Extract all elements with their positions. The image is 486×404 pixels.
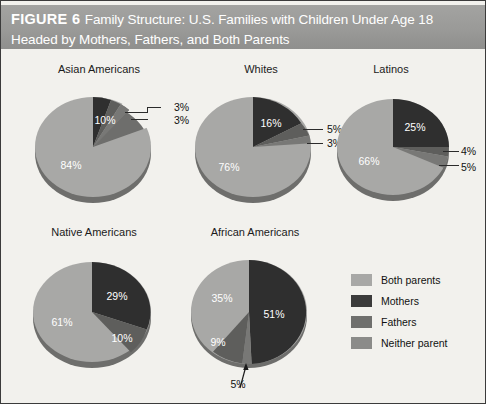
pie-chart-native-americans: 29% 10% 61% <box>29 248 161 374</box>
figure-container: FIGURE 6 Family Structure: U.S. Families… <box>0 0 486 404</box>
pie-svg-latinos <box>333 85 459 207</box>
legend-item-both-parents: Both parents <box>351 269 448 290</box>
leader-line-asian-fathers-top <box>147 107 161 108</box>
slice-label-native-fathers: 10% <box>111 332 132 344</box>
legend-swatch-mothers <box>351 295 372 307</box>
pie-title-whites: Whites <box>181 63 341 75</box>
slice-label-latinos-neither: 5% <box>461 161 476 173</box>
slice-label-latinos-both-parents: 66% <box>358 155 379 167</box>
slice-label-whites-both-parents: 76% <box>218 161 239 173</box>
legend: Both parents Mothers Fathers Neither par… <box>351 269 448 353</box>
leader-line-latinos-fathers <box>443 151 459 152</box>
figure-title-line-1: Family Structure: U.S. Families with Chi… <box>85 12 433 27</box>
pie-title-african-americans: African Americans <box>176 226 334 238</box>
pie-chart-african-americans: 51% 35% 9% <box>186 248 318 374</box>
slice-label-native-mothers: 29% <box>106 290 127 302</box>
slice-label-native-both-parents: 61% <box>51 316 72 328</box>
legend-label-both-parents: Both parents <box>381 274 441 286</box>
legend-label-neither-parent: Neither parent <box>381 337 448 349</box>
pie-panel-whites: Whites 16% 76% 5% 3% <box>181 63 341 208</box>
slice-label-african-both-parents: 35% <box>211 292 232 304</box>
pie-panel-african-americans: African Americans 51% 35% 9% 5% <box>176 226 346 396</box>
leader-line-asian-neither-v <box>147 119 148 120</box>
pie-svg-whites <box>191 85 321 207</box>
slice-label-african-mothers: 51% <box>263 308 284 320</box>
slice-label-asian-mothers: 10% <box>94 114 115 126</box>
pie-chart-whites: 16% 76% <box>191 85 321 207</box>
legend-label-mothers: Mothers <box>381 295 419 307</box>
slice-label-african-neither: 5% <box>230 378 245 390</box>
slice-label-whites-mothers: 16% <box>260 117 281 129</box>
legend-item-fathers: Fathers <box>351 311 448 332</box>
figure-header-band: FIGURE 6 Family Structure: U.S. Families… <box>1 5 486 49</box>
legend-swatch-neither-parent <box>351 337 372 349</box>
leader-line-whites-fathers <box>303 129 323 130</box>
figure-title-line-2: Headed by Mothers, Fathers, and Both Par… <box>11 32 290 47</box>
leader-line-whites-neither <box>307 143 323 144</box>
legend-item-mothers: Mothers <box>351 290 448 311</box>
figure-header-line-2: Headed by Mothers, Fathers, and Both Par… <box>11 29 477 49</box>
leader-line-latinos-neither <box>439 165 459 166</box>
pie-title-asian-americans: Asian Americans <box>19 63 179 75</box>
slice-label-asian-both-parents: 84% <box>60 159 81 171</box>
legend-item-neither-parent: Neither parent <box>351 332 448 353</box>
slice-label-african-fathers: 9% <box>210 336 225 348</box>
pie-svg-african-americans <box>186 248 318 374</box>
legend-swatch-fathers <box>351 316 372 328</box>
slice-label-latinos-fathers: 4% <box>461 145 476 157</box>
pie-title-latinos: Latinos <box>331 63 451 75</box>
pie-panel-latinos: Latinos 25% 66% 4% 5% <box>331 63 481 208</box>
legend-label-fathers: Fathers <box>381 316 417 328</box>
leader-line-asian-fathers-h <box>125 112 147 113</box>
figure-number: FIGURE 6 <box>11 11 80 27</box>
slice-label-latinos-mothers: 25% <box>404 121 425 133</box>
pie-chart-asian-americans: 10% 84% <box>31 85 161 207</box>
pie-svg-native-americans <box>29 248 161 374</box>
pie-chart-latinos: 25% 66% <box>333 85 459 207</box>
pie-title-native-americans: Native Americans <box>19 226 169 238</box>
figure-header-line-1: FIGURE 6 Family Structure: U.S. Families… <box>11 9 477 29</box>
pie-panel-asian-americans: Asian Americans 10% 84% 3% 3% <box>19 63 179 208</box>
legend-swatch-both-parents <box>351 274 372 286</box>
pie-panel-native-americans: Native Americans 29% 10% 61% <box>19 226 189 386</box>
pie-svg-asian-americans <box>31 85 161 207</box>
leader-line-asian-neither-h <box>131 119 147 120</box>
